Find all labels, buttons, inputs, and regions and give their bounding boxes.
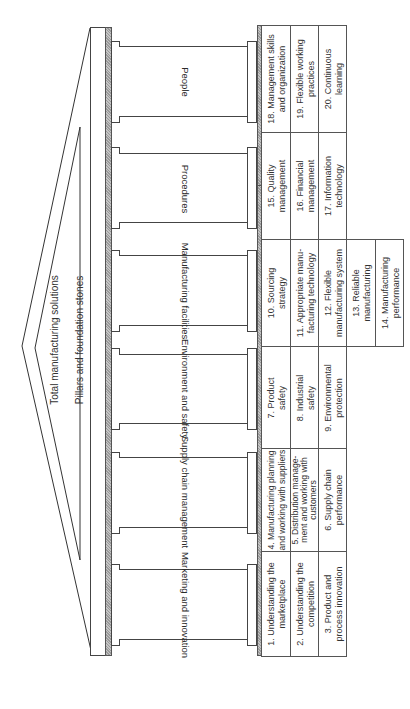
foundation-stone: 4. Manufacturing planning and working wi…: [261, 448, 291, 552]
diagram-title: Total manufacturing solutions: [48, 260, 61, 420]
foundation-stone: 3. Product and process innovation: [318, 551, 347, 657]
foundation-stone: 6. Supply chain performance: [318, 448, 347, 552]
foundation-stone: 2. Understanding the competition: [290, 551, 319, 657]
pillar-base: [247, 348, 257, 430]
foundation-stone: 5. Distribution manage- ment and working…: [290, 448, 319, 552]
foundation-stone: 15. Quality management: [261, 132, 291, 240]
foundation-stone: 1. Understanding the marketplace: [261, 551, 291, 657]
pillar-label: Environment and safety: [180, 339, 191, 439]
pillar-label: Marketing and innovation: [180, 552, 191, 658]
foundation-stone: 14. Manufacturing performance: [375, 239, 404, 347]
foundation-stone: 13. Reliable manufacturing: [346, 239, 376, 347]
foundation-stone: 16. Financial management: [290, 132, 319, 240]
pillar-base: [247, 452, 257, 534]
foundation-stone: 19. Flexible working practices: [290, 25, 319, 133]
foundation-stone: 8. Industrial safety: [290, 346, 319, 449]
roof-slab-full: [90, 27, 106, 656]
pillar-label: People: [180, 67, 191, 97]
foundation-stone: 10. Sourcing strategy: [261, 239, 291, 347]
pillar-base: [247, 250, 257, 332]
diagram-title-block: Total manufacturing solutions Pillars an…: [36, 260, 99, 420]
foundation-stone: 7. Product safety: [261, 346, 291, 449]
pillar-label: Supply chain management: [180, 436, 191, 549]
foundation-stone: 12. Flexible manufacturing system: [318, 239, 347, 347]
pillar-label: Manufacturing facilities: [180, 243, 191, 340]
foundation-stone: 20. Continuous learning: [318, 25, 347, 133]
pillar-base: [247, 564, 257, 646]
pillar-label: Procedures: [180, 165, 191, 214]
pillar-base: [247, 41, 257, 123]
foundation-stone: 9. Environmental protection: [318, 346, 347, 449]
foundation-stone: 18. Management skills and organization: [261, 25, 291, 133]
foundation-stone: 17. Information technology: [318, 132, 347, 240]
foundation-stone: 11. Appropriate manu- facturing technolo…: [290, 239, 319, 347]
pillar-base: [247, 147, 257, 229]
diagram-subtitle: Pillars and foundation stones: [73, 260, 86, 420]
